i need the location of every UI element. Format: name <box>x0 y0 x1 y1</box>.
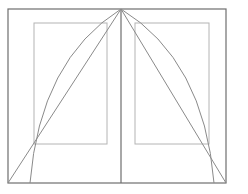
left-diagonal <box>8 9 121 183</box>
page-spread-diagram <box>0 0 248 194</box>
outer-frame <box>8 9 226 183</box>
right-diagonal <box>121 9 226 183</box>
right-text-block <box>135 23 209 144</box>
